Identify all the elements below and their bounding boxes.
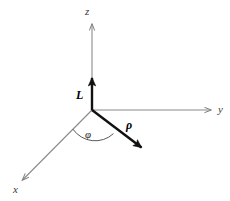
azimuthal-angle-arc: [73, 129, 114, 141]
angular-momentum-vector-label: L: [76, 89, 83, 101]
radial-vector-label: ρ: [126, 119, 132, 131]
x-axis-label: x: [13, 184, 18, 195]
axes-group: [23, 24, 212, 180]
azimuthal-angle-label: φ: [85, 129, 91, 140]
vectors-group: [92, 78, 142, 148]
radial-vector-arrow: [92, 110, 142, 148]
vector-diagram-figure: z y x L ρ φ: [0, 0, 230, 201]
x-axis-line: [23, 110, 93, 180]
diagram-canvas: [0, 0, 230, 201]
azimuthal-angle-arc-group: [73, 129, 114, 141]
y-axis-label: y: [218, 104, 223, 115]
z-axis-label: z: [85, 6, 89, 17]
